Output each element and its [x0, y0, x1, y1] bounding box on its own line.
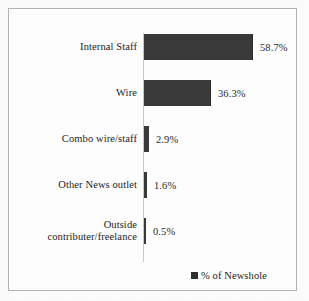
bar[interactable] — [144, 34, 253, 60]
legend-label: % of Newshole — [201, 270, 267, 281]
bar-row: Combo wire/staff2.9% — [0, 116, 309, 162]
bar-and-value: 1.6% — [144, 172, 176, 198]
bar-value-label: 2.9% — [156, 134, 178, 145]
chart-legend: % of Newshole — [191, 270, 267, 281]
bar-row: Wire36.3% — [0, 70, 309, 116]
bar-and-value: 0.5% — [144, 218, 175, 244]
bar-and-value: 36.3% — [144, 80, 246, 106]
bar-value-label: 1.6% — [154, 180, 176, 191]
bar-and-value: 2.9% — [144, 126, 178, 152]
bar[interactable] — [144, 218, 146, 244]
bar[interactable] — [144, 172, 147, 198]
bar-and-value: 58.7% — [144, 34, 288, 60]
category-label: Combo wire/staff — [7, 133, 137, 146]
category-label: Wire — [7, 87, 137, 100]
bar[interactable] — [144, 126, 149, 152]
bar-row: Outside contributer/freelance0.5% — [0, 208, 309, 254]
bar-chart-figure: Internal Staff58.7%Wire36.3%Combo wire/s… — [0, 0, 309, 301]
bar[interactable] — [144, 80, 211, 106]
category-label: Internal Staff — [7, 41, 137, 54]
category-label: Other News outlet — [7, 179, 137, 192]
bar-row: Other News outlet1.6% — [0, 162, 309, 208]
bar-value-label: 0.5% — [153, 226, 175, 237]
category-label: Outside contributer/freelance — [7, 219, 137, 244]
bar-value-label: 58.7% — [260, 42, 288, 53]
bar-value-label: 36.3% — [218, 88, 246, 99]
legend-marker-square-icon — [191, 272, 198, 279]
bar-row: Internal Staff58.7% — [0, 24, 309, 70]
